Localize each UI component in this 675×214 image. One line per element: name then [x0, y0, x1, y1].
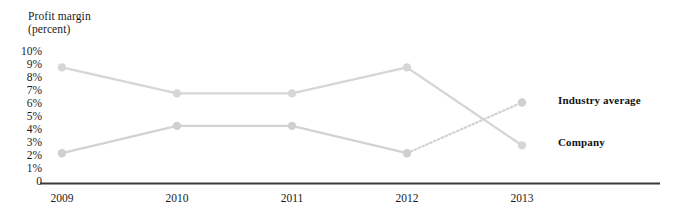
- data-point: [288, 89, 296, 97]
- data-point: [173, 122, 181, 130]
- markers-company: [58, 98, 526, 157]
- data-point: [58, 63, 66, 71]
- data-point: [518, 98, 526, 106]
- data-point: [403, 149, 411, 157]
- data-point: [288, 122, 296, 130]
- series-label-industry-average: Industry average: [558, 94, 641, 106]
- profit-margin-line-chart: Profit margin(percent) 10% 9% 8% 7% 6% 5…: [0, 0, 675, 214]
- line-company-projection-dotted: [407, 103, 522, 154]
- data-point: [173, 89, 181, 97]
- x-tick-label-2009: 2009: [27, 192, 97, 204]
- x-tick-label-2012: 2012: [372, 192, 442, 204]
- line-company: [62, 126, 407, 153]
- x-tick-label-2011: 2011: [257, 192, 327, 204]
- data-point: [518, 141, 526, 149]
- data-point: [58, 149, 66, 157]
- x-tick-label-2010: 2010: [142, 192, 212, 204]
- x-tick-label-2013: 2013: [487, 192, 557, 204]
- data-point: [403, 63, 411, 71]
- series-label-company: Company: [558, 136, 605, 148]
- plot-area: [0, 0, 675, 214]
